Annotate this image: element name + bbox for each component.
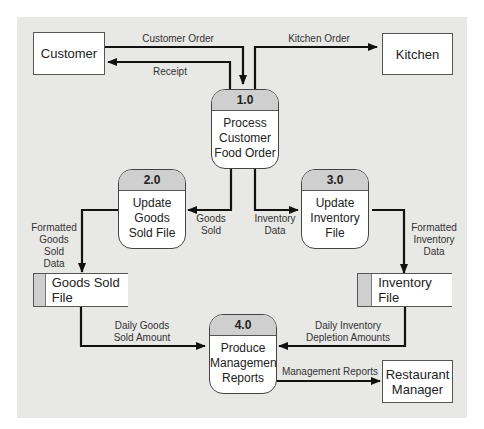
flow-label-inventory-data: Inventory Data <box>250 213 300 237</box>
flow-label-daily-goods: Daily Goods Sold Amount <box>102 320 182 344</box>
datastore-tab <box>34 274 46 306</box>
entity-label: Customer <box>41 46 97 61</box>
process-id: 1.0 <box>212 90 278 111</box>
datastore-label: Inventory File <box>372 275 452 305</box>
entity-customer[interactable]: Customer <box>33 32 105 75</box>
flow-inventory-data <box>255 169 298 210</box>
datastore-label: Goods Sold File <box>46 275 128 305</box>
process-1[interactable]: 1.0 Process Customer Food Order <box>211 89 279 169</box>
entity-label: Kitchen <box>396 47 439 62</box>
datastore-goods-sold-file[interactable]: Goods Sold File <box>33 273 128 307</box>
flow-label-goods-sold: Goods Sold <box>196 213 226 237</box>
process-name: Update Goods Sold File <box>119 191 185 241</box>
process-3[interactable]: 3.0 Update Inventory File <box>301 169 369 249</box>
flow-formatted-inventory <box>372 210 404 273</box>
flow-kitchen-order <box>255 47 377 89</box>
flow-goods-sold <box>188 169 231 210</box>
process-id: 4.0 <box>210 315 276 336</box>
entity-label: Restaurant Manager <box>386 367 450 397</box>
flow-label-daily-inventory: Daily Inventory Depletion Amounts <box>298 320 398 344</box>
process-name: Process Customer Food Order <box>212 111 278 161</box>
process-4[interactable]: 4.0 Produce Management Reports <box>209 314 277 394</box>
flow-label-formatted-inventory: Formatted Inventory Data <box>404 222 464 258</box>
flow-label-receipt: Receipt <box>140 66 200 78</box>
datastore-tab <box>358 274 372 306</box>
entity-restaurant-manager[interactable]: Restaurant Manager <box>382 360 453 403</box>
datastore-inventory-file[interactable]: Inventory File <box>357 273 452 307</box>
process-id: 2.0 <box>119 170 185 191</box>
flow-label-kitchen-order: Kitchen Order <box>279 33 359 45</box>
process-name: Update Inventory File <box>302 191 368 241</box>
process-name: Produce Management Reports <box>210 336 276 386</box>
flow-label-formatted-goods: Formatted Goods Sold Data <box>28 222 80 270</box>
process-id: 3.0 <box>302 170 368 191</box>
flow-formatted-goods <box>82 210 118 272</box>
entity-kitchen[interactable]: Kitchen <box>382 33 453 75</box>
flow-label-customer-order: Customer Order <box>128 33 228 45</box>
process-2[interactable]: 2.0 Update Goods Sold File <box>118 169 186 249</box>
flow-label-management-reports: Management Reports <box>280 366 380 378</box>
